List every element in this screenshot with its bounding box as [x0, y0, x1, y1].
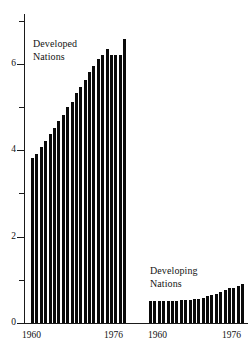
bar — [228, 288, 231, 323]
y-axis-major-tick — [17, 237, 25, 238]
bar — [184, 300, 187, 323]
bar — [162, 301, 165, 323]
bar — [75, 93, 78, 323]
bar-series-developed-nations — [31, 23, 126, 323]
bar — [206, 296, 209, 323]
y-axis-tick-label: 2 — [2, 232, 16, 242]
bar — [215, 294, 218, 323]
bar — [114, 55, 117, 323]
bar — [53, 128, 56, 323]
x-tick-label-developing-start: 1960 — [148, 330, 167, 340]
bar — [202, 298, 205, 323]
bar — [110, 55, 113, 323]
bar — [40, 147, 43, 323]
bar — [237, 286, 240, 323]
x-tick-label-developed-end: 1976 — [104, 330, 123, 340]
y-axis-major-tick — [17, 64, 25, 65]
bar — [210, 295, 213, 323]
bar — [84, 80, 87, 323]
bar — [31, 158, 34, 323]
y-axis-minor-tick — [19, 107, 25, 108]
series-label-developing-nations: Developing Nations — [150, 265, 198, 290]
bar — [123, 39, 126, 323]
bar — [180, 300, 183, 323]
y-axis-tick-label: 6 — [2, 59, 16, 69]
bar — [49, 134, 52, 323]
bar — [171, 301, 174, 323]
bar-chart-figure: 0246 Developed Nations 1960 1976 Develop… — [0, 0, 252, 353]
bar — [35, 154, 38, 323]
x-tick-label-developing-end: 1976 — [222, 330, 241, 340]
bar — [193, 299, 196, 323]
bar — [62, 115, 65, 323]
bar — [219, 292, 222, 323]
y-axis-minor-tick — [19, 280, 25, 281]
bar — [92, 66, 95, 323]
bar — [79, 87, 82, 323]
bar — [241, 284, 244, 323]
bar — [189, 300, 192, 323]
bar — [66, 107, 69, 323]
y-axis-tick-label: 0 — [2, 318, 16, 328]
x-axis-baseline — [24, 323, 248, 324]
y-axis-tick-label: 4 — [2, 145, 16, 155]
bar — [167, 301, 170, 323]
y-axis-major-tick — [17, 150, 25, 151]
y-axis-minor-tick — [19, 21, 25, 22]
bar — [197, 299, 200, 323]
y-axis-minor-tick — [19, 193, 25, 194]
series-label-developed-nations: Developed Nations — [33, 38, 77, 63]
bar — [149, 301, 152, 323]
bar — [158, 301, 161, 323]
bar — [57, 121, 60, 323]
bar — [106, 49, 109, 323]
bar — [97, 59, 100, 323]
bar — [175, 301, 178, 323]
bar — [88, 72, 91, 323]
bar — [71, 102, 74, 323]
x-tick-label-developed-start: 1960 — [22, 330, 41, 340]
y-axis-line — [24, 14, 25, 324]
bar — [153, 301, 156, 323]
bar — [224, 290, 227, 323]
bar — [119, 55, 122, 323]
bar — [44, 141, 47, 323]
bar — [232, 288, 235, 323]
bar — [101, 55, 104, 323]
